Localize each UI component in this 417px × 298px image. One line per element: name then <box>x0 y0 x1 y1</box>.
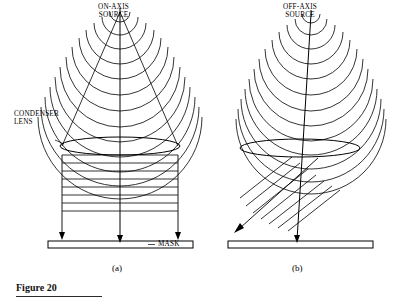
condenser-lens-label: CONDENSER LENS <box>14 110 59 127</box>
condenser-lens-leader <box>55 140 64 144</box>
arrowhead-center-b <box>294 235 300 243</box>
oblique-arrow-ray-b <box>240 158 318 228</box>
figure-caption: Figure 20 <box>16 282 57 293</box>
on-axis-source-label: ON-AXIS SOURCE <box>98 3 129 20</box>
panel-b-label: (b) <box>292 263 303 273</box>
figure-container: ON-AXIS SOURCE OFF-AXIS SOURCE CONDENSER… <box>0 0 417 298</box>
off-axis-source-label: OFF-AXIS SOURCE <box>283 3 317 20</box>
arrowhead-oblique-b <box>234 223 244 233</box>
panel-b-graphics <box>228 14 386 248</box>
mask-bar-b <box>228 241 373 248</box>
arrowhead-right-a <box>175 232 181 240</box>
wavefront-arcs-b <box>236 14 386 194</box>
panel-a-graphics <box>38 12 202 248</box>
arrowhead-left-a <box>59 232 65 240</box>
optics-diagram <box>0 0 417 298</box>
caption-underline <box>16 296 102 297</box>
arrowhead-center-a <box>117 235 123 243</box>
mask-label: MASK <box>158 240 180 248</box>
panel-a-label: (a) <box>112 263 122 273</box>
